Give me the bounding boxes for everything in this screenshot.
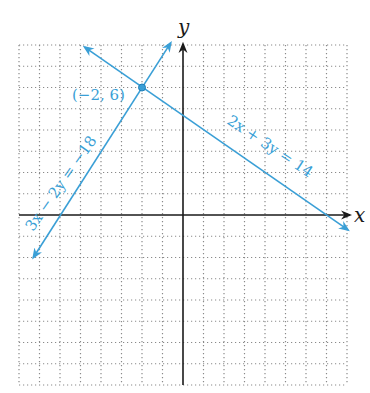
line2-equation-label: 3x − 2y = −18 bbox=[22, 132, 101, 234]
labels: y x (−2, 6) 2x + 3y = 14 3x − 2y = −18 bbox=[22, 15, 366, 234]
x-axis-label: x bbox=[354, 203, 365, 227]
intersection-label: (−2, 6) bbox=[72, 86, 125, 104]
coordinate-plane: y x (−2, 6) 2x + 3y = 14 3x − 2y = −18 bbox=[0, 0, 370, 393]
line-2 bbox=[33, 43, 170, 258]
line1-equation-label: 2x + 3y = 14 bbox=[224, 111, 317, 181]
line-1 bbox=[85, 47, 348, 230]
axes bbox=[19, 44, 350, 385]
y-axis-label: y bbox=[177, 15, 190, 39]
intersection-point bbox=[139, 84, 146, 91]
